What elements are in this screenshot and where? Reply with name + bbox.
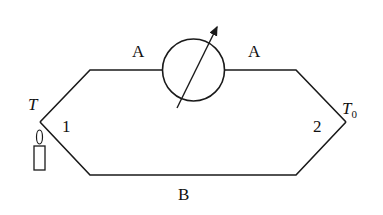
label-cold-temperature: T0	[342, 100, 357, 120]
wire-a-right	[225, 70, 346, 122]
label-junction-2: 2	[313, 118, 322, 135]
thermocouple-diagram: A A B T T0 1 2	[0, 0, 383, 215]
wire-a-left	[40, 70, 162, 122]
cold-temp-subscript: 0	[351, 108, 357, 120]
label-hot-temperature: T	[28, 96, 37, 113]
label-wire-b: B	[178, 186, 189, 203]
circuit-lines	[0, 0, 383, 215]
candle-icon	[34, 130, 45, 170]
label-junction-1: 1	[62, 118, 71, 135]
label-wire-a-left: A	[132, 43, 144, 60]
label-wire-a-right: A	[248, 43, 260, 60]
galvanometer-icon	[163, 39, 225, 101]
wire-b	[40, 122, 346, 175]
